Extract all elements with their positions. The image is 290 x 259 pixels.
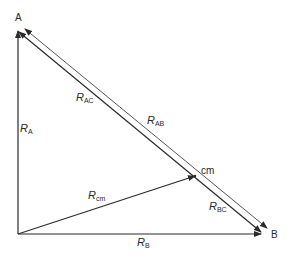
vector-r-ac-bc [19,32,261,232]
point-label-a: A [15,12,22,23]
label-r-b: RB [137,236,150,249]
vector-r-cm [18,176,195,234]
label-r-cm: Rcm [88,189,105,202]
label-r-ab: RAB [147,114,165,127]
point-label-b: B [271,229,278,240]
vector-r-ab [25,29,267,228]
label-r-ac: RAC [76,91,94,104]
label-r-a: RA [20,122,33,135]
point-label-cm: cm [201,165,214,176]
vector-diagram: A B cm RA RB Rcm RAC RBC RAB [0,0,290,259]
cm-point [194,175,196,177]
